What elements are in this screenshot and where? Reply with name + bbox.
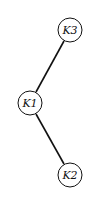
tree-diagram: K3 K1 K2 (0, 0, 107, 197)
node-k3-label: K3 (61, 24, 77, 37)
node-k2: K2 (58, 163, 82, 187)
node-k1-label: K1 (21, 97, 37, 110)
edge-k1-k2 (36, 114, 64, 164)
node-k3: K3 (58, 18, 82, 42)
node-k1: K1 (18, 91, 42, 115)
node-k2-label: K2 (61, 169, 77, 182)
edge-k3-k1 (36, 41, 64, 92)
